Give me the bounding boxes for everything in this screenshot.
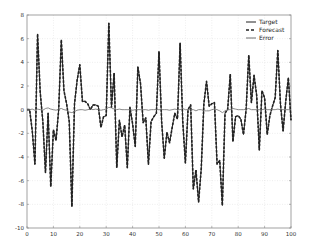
- y-tick-label: 0: [21, 107, 25, 113]
- x-tick-label: 70: [208, 231, 215, 237]
- y-tick-label: 2: [21, 83, 25, 89]
- x-tick-label: 80: [235, 231, 242, 237]
- y-tick-label: -2: [19, 130, 24, 136]
- y-tick-label: 6: [21, 36, 25, 42]
- x-tick-label: 20: [76, 231, 83, 237]
- x-tick-label: 10: [50, 231, 57, 237]
- x-tick-label: 60: [182, 231, 189, 237]
- legend: Target Forecast Error: [246, 18, 285, 41]
- x-tick-label: 90: [261, 231, 268, 237]
- legend-label-error: Error: [259, 34, 274, 41]
- y-tick-label: -6: [19, 178, 25, 184]
- y-tick-label: 8: [21, 12, 25, 18]
- y-axis: -10-8-6-4-202468: [15, 12, 291, 231]
- x-tick-label: 40: [129, 231, 136, 237]
- line-chart: -10-8-6-4-202468 0102030405060708090100 …: [0, 0, 311, 249]
- x-tick-label: 50: [156, 231, 163, 237]
- plot-frame: [27, 15, 291, 228]
- y-tick-label: -8: [19, 201, 25, 207]
- x-tick-label: 0: [25, 231, 29, 237]
- grid-lines: [27, 15, 291, 228]
- y-tick-label: -10: [15, 225, 24, 231]
- y-tick-label: 4: [21, 59, 25, 65]
- y-tick-label: -4: [19, 154, 25, 160]
- x-tick-label: 30: [103, 231, 110, 237]
- legend-label-target: Target: [258, 18, 278, 26]
- legend-label-forecast: Forecast: [259, 26, 285, 33]
- x-tick-label: 100: [286, 231, 297, 237]
